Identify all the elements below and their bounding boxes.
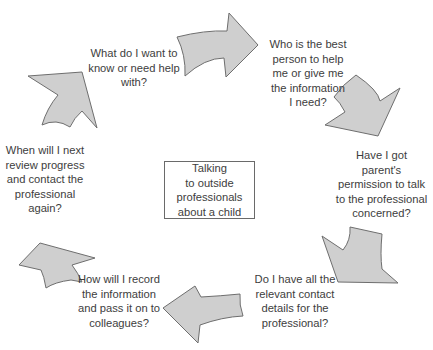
step-what-do-i-want: What do I want to know or need help with… (86, 46, 182, 90)
center-topic-box: Talking to outside professionals about a… (164, 161, 255, 219)
arrow-right-icon (177, 13, 258, 77)
arrow-left-icon (163, 286, 243, 343)
step-contact-details: Do I have all the relevant contact detai… (245, 272, 345, 330)
center-topic-text: Talking to outside professionals about a… (177, 161, 243, 219)
cycle-diagram: What do I want to know or need help with… (0, 0, 433, 350)
step-who-is-best-person: Who is the best person to help me or giv… (261, 37, 355, 110)
step-parent-permission: Have I got parent's permission to talk t… (330, 148, 433, 221)
step-record-information: How will I record the information and pa… (70, 272, 168, 330)
step-review-progress: When will I next review progress and con… (2, 143, 88, 216)
